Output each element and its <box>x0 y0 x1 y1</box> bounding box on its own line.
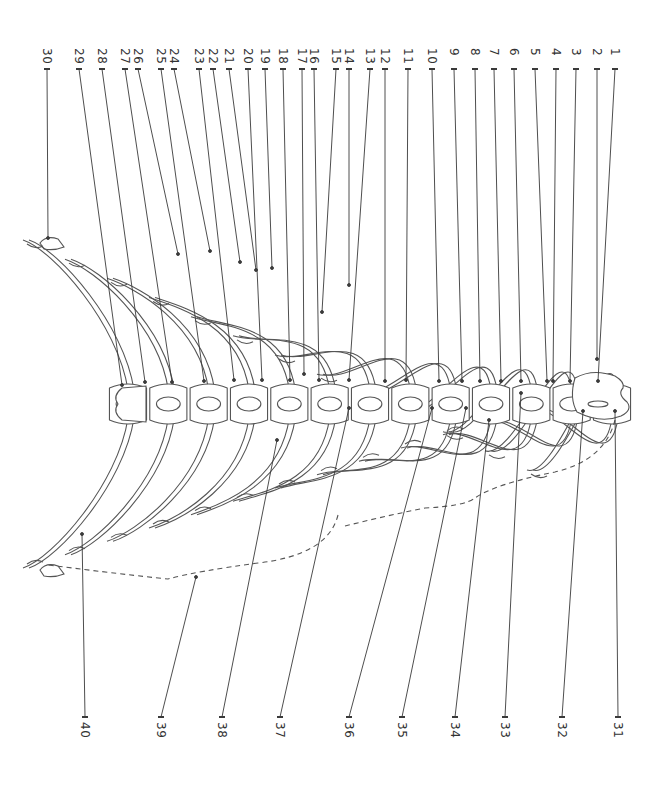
label-10: 10 <box>426 48 438 64</box>
label-28: 28 <box>96 48 108 64</box>
leader-line-39 <box>161 577 196 717</box>
label-40: 40 <box>79 722 91 738</box>
ventral-ribs <box>23 400 618 576</box>
leader-line-16 <box>314 69 319 380</box>
leader-line-30 <box>47 69 48 238</box>
label-35: 35 <box>396 722 408 738</box>
leader-line-37 <box>280 408 349 717</box>
leader-line-11 <box>406 69 408 380</box>
label-18: 18 <box>277 48 289 64</box>
leader-line-15 <box>322 69 336 312</box>
label-21: 21 <box>223 48 235 64</box>
label-14: 14 <box>343 48 355 64</box>
label-36: 36 <box>343 722 355 738</box>
label-34: 34 <box>449 722 461 738</box>
label-37: 37 <box>274 722 286 738</box>
label-13: 13 <box>364 48 376 64</box>
label-3: 3 <box>570 48 582 56</box>
label-12: 12 <box>379 48 391 64</box>
leader-line-33 <box>505 393 521 717</box>
leader-line-26 <box>138 69 178 254</box>
leader-line-38 <box>222 440 277 717</box>
ribcage-illustration <box>0 0 664 796</box>
label-11: 11 <box>402 48 414 64</box>
ribcage-diagram: 3029282726252423222120191817161514131211… <box>0 0 664 796</box>
leader-line-19 <box>265 69 272 268</box>
leader-line-17 <box>302 69 304 374</box>
leader-line-25 <box>161 69 204 381</box>
label-16: 16 <box>308 48 320 64</box>
label-33: 33 <box>499 722 511 738</box>
label-1: 1 <box>609 48 621 56</box>
leader-line-10 <box>432 69 439 381</box>
leader-line-18 <box>283 69 290 380</box>
label-8: 8 <box>469 48 481 56</box>
leader-line-29 <box>79 69 122 385</box>
label-27: 27 <box>119 48 131 64</box>
label-29: 29 <box>73 48 85 64</box>
label-39: 39 <box>155 722 167 738</box>
leader-line-5 <box>535 69 547 381</box>
leader-line-24 <box>174 69 210 251</box>
leader-line-35 <box>402 408 466 717</box>
label-4: 4 <box>550 48 562 56</box>
leader-line-1 <box>598 69 615 381</box>
leader-line-40 <box>82 534 85 717</box>
label-2: 2 <box>591 48 603 56</box>
leader-line-32 <box>562 411 583 717</box>
leader-line-21 <box>229 69 256 270</box>
label-24: 24 <box>168 48 180 64</box>
label-6: 6 <box>508 48 520 56</box>
leader-line-7 <box>494 69 501 381</box>
leader-line-31 <box>615 411 618 717</box>
leader-line-23 <box>199 69 234 380</box>
leader-line-34 <box>455 420 489 717</box>
leader-line-9 <box>454 69 462 381</box>
label-15: 15 <box>330 48 342 64</box>
leader-line-6 <box>514 69 521 381</box>
leader-line-8 <box>475 69 480 381</box>
label-25: 25 <box>155 48 167 64</box>
leader-line-3 <box>570 69 576 381</box>
label-23: 23 <box>193 48 205 64</box>
label-32: 32 <box>556 722 568 738</box>
label-7: 7 <box>488 48 500 56</box>
leader-line-13 <box>349 69 370 380</box>
dashed-brackets <box>48 420 615 579</box>
label-20: 20 <box>242 48 254 64</box>
label-26: 26 <box>132 48 144 64</box>
label-19: 19 <box>259 48 271 64</box>
label-5: 5 <box>529 48 541 56</box>
label-31: 31 <box>612 722 624 738</box>
label-9: 9 <box>448 48 460 56</box>
label-22: 22 <box>207 48 219 64</box>
label-38: 38 <box>216 722 228 738</box>
leader-line-4 <box>553 69 556 381</box>
label-30: 30 <box>41 48 53 64</box>
